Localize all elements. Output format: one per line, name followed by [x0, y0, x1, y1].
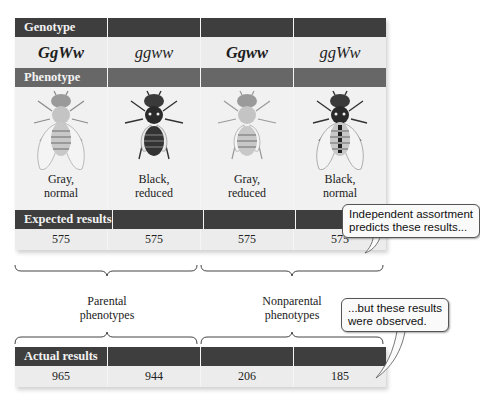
actual-value: 944	[108, 366, 201, 387]
phenotype-cell: Gray, normal	[15, 87, 108, 210]
actual-callout: ...but these results were observed.	[341, 298, 449, 332]
actual-header-row: Actual results	[15, 347, 386, 366]
expected-values-row: 575 575 575 575	[15, 229, 386, 250]
actual-value: 206	[201, 366, 294, 387]
genotype-header: Genotype	[15, 18, 108, 37]
fly-black-reduced-wings-icon	[119, 89, 189, 175]
actual-value: 965	[15, 366, 108, 387]
actual-values-row: 965 944 206 185	[15, 366, 386, 387]
fly-gray-reduced-wings-icon	[212, 89, 282, 175]
genotype-cell: ggww	[108, 37, 201, 68]
phenotype-cell: Black, reduced	[108, 87, 201, 210]
parental-label: Parental phenotypes	[57, 294, 157, 322]
expected-header-row: Expected results	[15, 210, 386, 229]
actual-header-label: Actual results	[15, 347, 107, 366]
phenotype-label: Black, reduced	[108, 172, 200, 200]
phenotype-label: Black, normal	[294, 172, 386, 200]
genotype-cell: GgWw	[15, 37, 108, 68]
fly-gray-normal-wings-icon	[26, 89, 96, 175]
phenotype-label: Gray, normal	[15, 172, 107, 200]
genotype-header-label: Genotype	[15, 18, 107, 37]
genotype-row: GgWw ggww Ggww ggWw	[15, 37, 386, 68]
expected-header: Expected results	[15, 210, 113, 229]
expected-callout: Independent assortment predicts these re…	[342, 204, 480, 238]
phenotype-cell: Black, normal	[294, 87, 386, 210]
fly-black-normal-wings-icon	[305, 89, 375, 175]
expected-value: 575	[201, 229, 294, 250]
nonparental-label: Nonparental phenotypes	[242, 294, 342, 322]
expected-value: 575	[15, 229, 108, 250]
genotype-cell: Ggww	[201, 37, 294, 68]
phenotype-header-label: Phenotype	[15, 68, 107, 87]
genotype-cell: ggWw	[294, 37, 386, 68]
phenotype-row: Gray, normal Black, reduced	[15, 87, 386, 210]
actual-table: Actual results 965 944 206 185	[15, 347, 386, 387]
expected-value: 575	[108, 229, 201, 250]
expected-header-label: Expected results	[15, 210, 112, 229]
phenotype-header-row: Phenotype	[15, 68, 386, 87]
brace-group-icon	[0, 262, 400, 278]
phenotype-header: Phenotype	[15, 68, 108, 87]
genotype-header-row: Genotype	[15, 18, 386, 37]
expected-table: Genotype GgWw ggww Ggww ggWw Phenotype	[15, 18, 386, 250]
phenotype-label: Gray, reduced	[201, 172, 293, 200]
actual-header: Actual results	[15, 347, 108, 366]
brace-group-icon	[0, 330, 400, 346]
phenotype-cell: Gray, reduced	[201, 87, 294, 210]
